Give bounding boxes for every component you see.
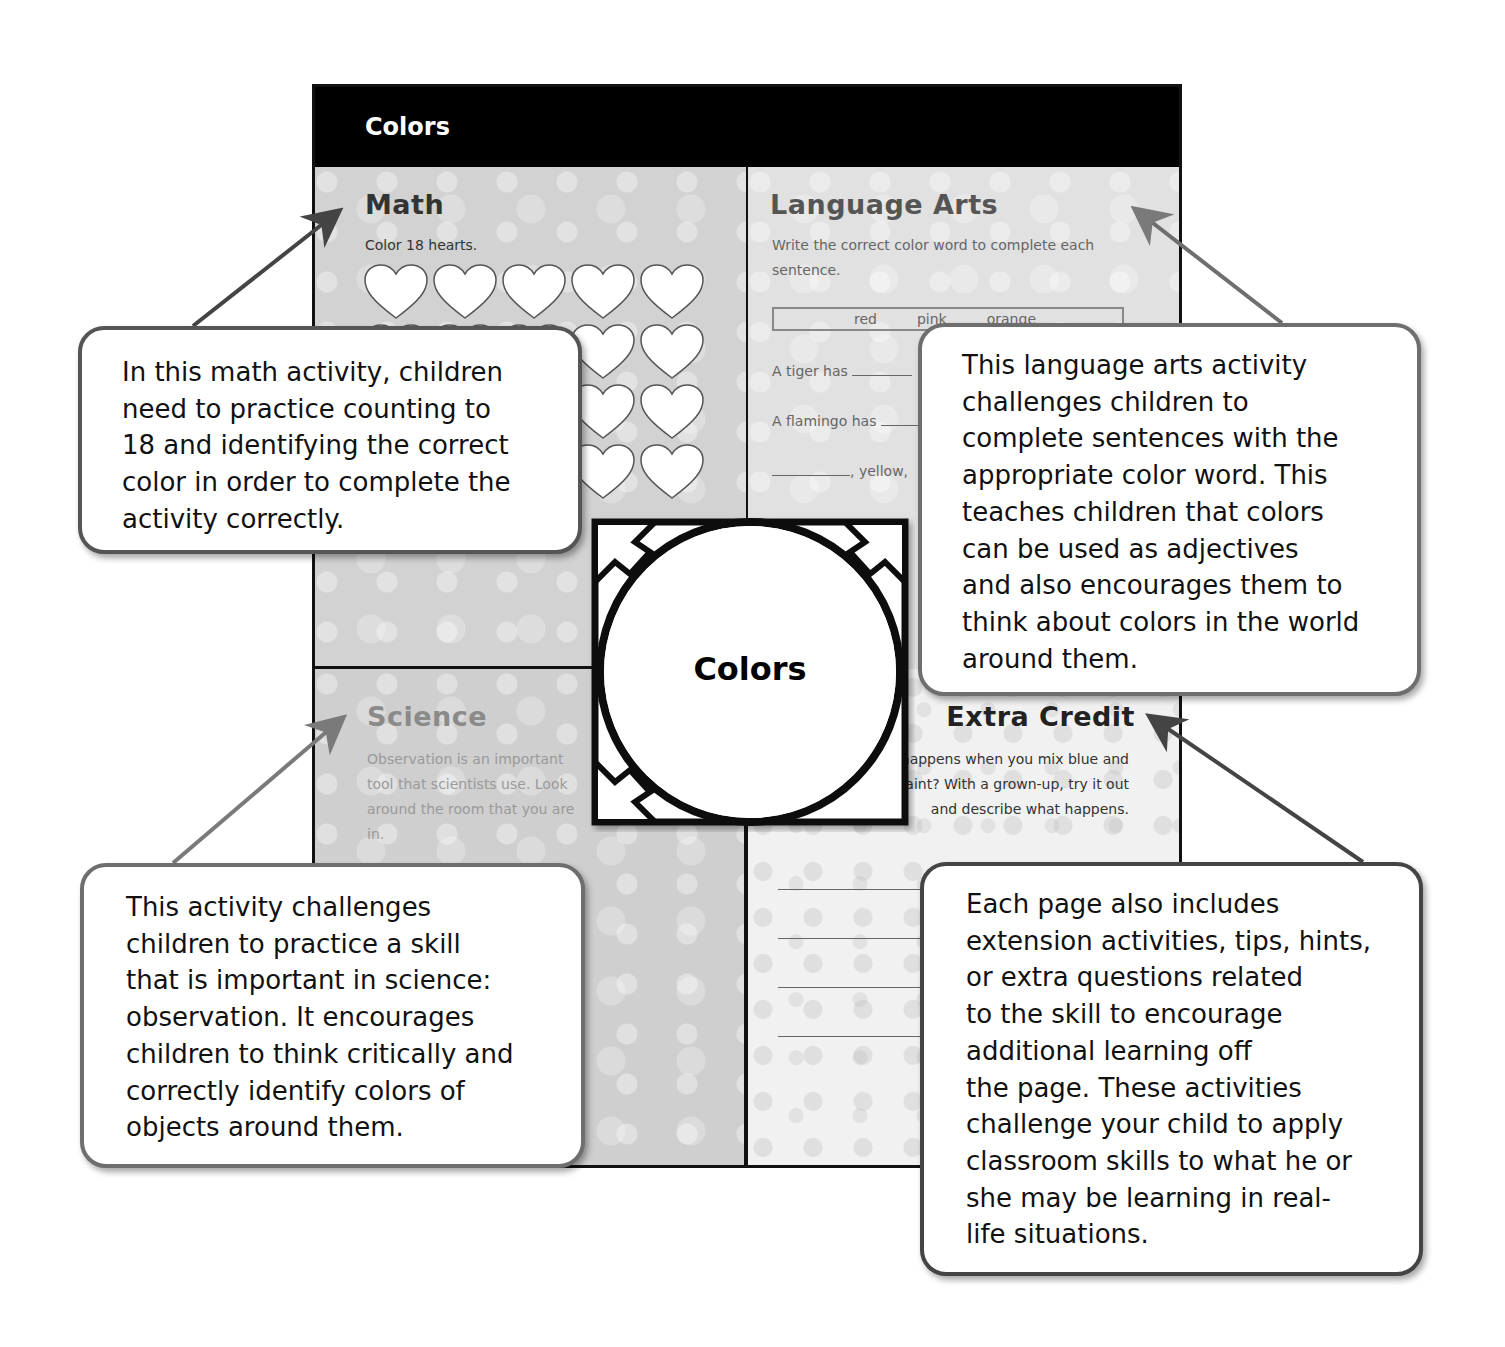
- science-title: Science: [367, 701, 487, 732]
- heart-icon[interactable]: [363, 263, 429, 321]
- heart-icon[interactable]: [570, 263, 636, 321]
- heart-icon[interactable]: [639, 323, 705, 381]
- sentence-2: A flamingo has: [772, 413, 941, 429]
- sentence-text: , yellow,: [850, 463, 908, 479]
- answer-blank[interactable]: [772, 475, 850, 476]
- word-bank-item: red: [854, 311, 877, 327]
- heart-icon[interactable]: [501, 263, 567, 321]
- heart-icon[interactable]: [639, 263, 705, 321]
- heart-icon[interactable]: [639, 383, 705, 441]
- center-topic-badge: Colors: [585, 512, 915, 832]
- sentence-3: , yellow,: [772, 463, 908, 479]
- callout-language-arts-text: This language arts activity challenges c…: [962, 347, 1405, 677]
- callout-extra-credit-text: Each page also includes extension activi…: [966, 886, 1407, 1253]
- center-topic-label: Colors: [585, 650, 915, 688]
- sentence-text: A flamingo has: [772, 413, 876, 429]
- callout-science: This activity challenges children to pra…: [80, 863, 585, 1168]
- sentence-text: A tiger has: [772, 363, 848, 379]
- sentence-1: A tiger has: [772, 363, 912, 379]
- callout-math: In this math activity, children need to …: [78, 326, 582, 554]
- page-banner: Colors: [315, 87, 1179, 167]
- heart-icon[interactable]: [432, 263, 498, 321]
- callout-science-text: This activity challenges children to pra…: [126, 889, 569, 1146]
- arrow-extra-credit: [1155, 720, 1363, 862]
- banner-title: Colors: [365, 113, 450, 141]
- extra-credit-title: Extra Credit: [946, 701, 1135, 732]
- language-arts-title: Language Arts: [770, 189, 998, 220]
- heart-icon[interactable]: [639, 443, 705, 501]
- math-instruction: Color 18 hearts.: [365, 233, 477, 258]
- answer-blank[interactable]: [852, 375, 912, 376]
- math-title: Math: [365, 189, 444, 220]
- callout-language-arts: This language arts activity challenges c…: [918, 323, 1421, 696]
- callout-extra-credit: Each page also includes extension activi…: [920, 862, 1423, 1276]
- language-arts-instruction: Write the correct color word to complete…: [772, 233, 1122, 283]
- callout-math-text: In this math activity, children need to …: [122, 354, 558, 538]
- science-text: Observation is an important tool that sc…: [367, 747, 587, 847]
